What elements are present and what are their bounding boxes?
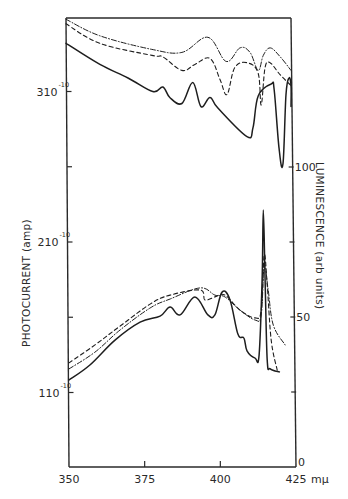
right-y-tick-label: 50 (296, 311, 310, 324)
left-y-tick-exponent: -10 (59, 231, 70, 239)
left-y-tick-exponent: -10 (61, 382, 72, 390)
x-axis-ticks: 350375400425 (59, 461, 307, 486)
x-tick-label: 425 (286, 473, 307, 486)
right-axis-title: LUMINESCENCE (arb units) (314, 162, 326, 309)
right-y-tick-label: 100 (295, 161, 316, 174)
x-tick-label: 375 (134, 473, 155, 486)
spectrum-chart: 350375400425 310-10210-10110-10 100500 P… (0, 0, 348, 499)
luminescence-solid-curve (69, 210, 279, 380)
right-y-tick-label: 0 (298, 456, 305, 469)
plot-frame (66, 18, 296, 467)
photocurrent-solid-curve (66, 43, 291, 167)
luminescence-dashed-curve (69, 254, 277, 370)
left-y-tick-exponent: -10 (58, 81, 69, 89)
x-tick-label: 400 (210, 473, 231, 486)
x-unit-label: mμ (311, 473, 329, 486)
curves (66, 19, 291, 380)
left-y-tick-label: 310 (36, 86, 57, 99)
left-y-tick-label: 110 (39, 387, 60, 400)
x-tick-label: 350 (59, 473, 80, 486)
photocurrent-dashdot-curve (66, 19, 291, 70)
left-y-tick-label: 210 (37, 236, 58, 249)
left-axis-title: PHOTOCURRENT (amp) (20, 219, 32, 347)
